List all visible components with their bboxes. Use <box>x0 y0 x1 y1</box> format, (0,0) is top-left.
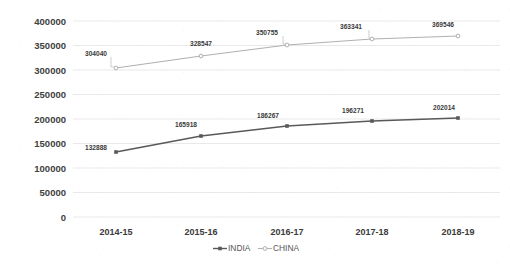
data-label-china: 363341 <box>340 23 362 30</box>
data-point-india <box>199 134 203 138</box>
chart-canvas: 400000 350000 300000 250000 200000 15000… <box>0 0 510 268</box>
data-point-india <box>456 116 460 120</box>
data-point-india <box>285 124 289 128</box>
legend-label-china: CHINA <box>273 243 299 253</box>
x-axis: 2014-15 2015-16 2016-17 2017-18 2018-19 <box>99 227 474 237</box>
line-chart: 400000 350000 300000 250000 200000 15000… <box>0 0 510 268</box>
y-axis: 400000 350000 300000 250000 200000 15000… <box>34 16 66 223</box>
y-tick-label: 50000 <box>40 187 66 198</box>
series-line-india <box>116 118 458 152</box>
y-tick-label: 300000 <box>34 65 66 76</box>
data-point-india <box>370 119 374 123</box>
x-tick-label: 2014-15 <box>99 227 132 237</box>
label-leader-line <box>111 57 115 67</box>
label-leader-line <box>369 30 371 38</box>
legend-item-china[interactable]: CHINA <box>258 243 299 253</box>
y-tick-label: 150000 <box>34 138 66 149</box>
y-tick-label: 400000 <box>34 16 66 27</box>
legend-label-india: INDIA <box>228 243 251 253</box>
y-tick-label: 350000 <box>34 40 66 51</box>
x-tick-label: 2017-18 <box>355 227 388 237</box>
y-tick-label: 0 <box>61 212 66 223</box>
data-label-china: 369546 <box>432 21 454 28</box>
data-label-india: 132888 <box>85 144 107 151</box>
data-point-china <box>114 66 118 70</box>
data-point-china <box>285 43 289 47</box>
data-label-china: 350755 <box>256 29 278 36</box>
data-point-china <box>370 37 374 41</box>
chart-legend: INDIA CHINA <box>213 243 299 253</box>
y-tick-label: 100000 <box>34 163 66 174</box>
data-label-india: 186267 <box>257 112 279 119</box>
series-line-china <box>116 36 458 68</box>
x-tick-label: 2016-17 <box>270 227 303 237</box>
data-label-india: 165918 <box>175 121 197 128</box>
series-india: 132888 165918 186267 196271 202014 <box>85 104 460 154</box>
label-leader-line <box>283 36 286 44</box>
legend-item-india[interactable]: INDIA <box>213 243 251 253</box>
data-label-china: 328547 <box>190 40 212 47</box>
data-label-india: 202014 <box>433 104 455 111</box>
data-label-india: 196271 <box>342 107 364 114</box>
data-point-china <box>456 34 460 38</box>
x-tick-label: 2018-19 <box>441 227 474 237</box>
data-label-china: 304040 <box>85 50 107 57</box>
y-tick-label: 200000 <box>34 114 66 125</box>
x-tick-label: 2015-16 <box>184 227 217 237</box>
y-tick-label: 250000 <box>34 89 66 100</box>
data-point-china <box>199 54 203 58</box>
legend-marker-india <box>218 247 222 251</box>
legend-marker-china <box>263 247 267 251</box>
data-point-india <box>114 150 118 154</box>
